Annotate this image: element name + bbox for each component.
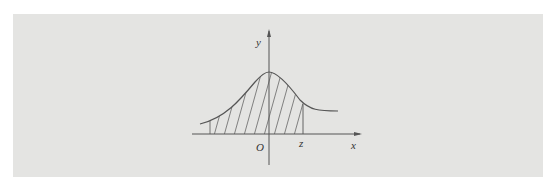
x-axis-arrow-icon <box>354 132 362 136</box>
z-label: z <box>298 137 304 149</box>
y-axis-label: y <box>255 36 261 48</box>
y-axis-arrow-icon <box>267 29 271 37</box>
normal-curve-diagram: y O z x <box>0 0 556 189</box>
origin-label: O <box>256 141 264 153</box>
x-axis-label: x <box>350 139 356 151</box>
